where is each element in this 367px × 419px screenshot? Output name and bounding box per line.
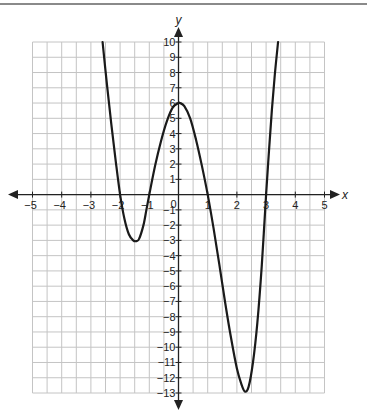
x-tick-label: 2 bbox=[234, 199, 240, 211]
tick-labels: −5−4−3−2−112345−13−12−11−10−9−8−7−6−5−4−… bbox=[24, 36, 327, 399]
y-tick-label: 8 bbox=[169, 67, 175, 79]
y-tick-label: 9 bbox=[169, 51, 175, 63]
y-tick-label: 2 bbox=[169, 158, 175, 170]
y-tick-label: −11 bbox=[158, 356, 176, 368]
x-axis-label: x bbox=[341, 188, 349, 202]
y-axis-label: y bbox=[175, 13, 183, 27]
y-tick-label: −3 bbox=[163, 234, 176, 246]
y-tick-label: −2 bbox=[163, 219, 176, 231]
y-axis-arrow-down-icon bbox=[174, 400, 183, 410]
x-tick-label: −3 bbox=[83, 199, 96, 211]
y-tick-label: −5 bbox=[163, 265, 176, 277]
y-tick-label: −6 bbox=[163, 280, 176, 292]
y-tick-label: −9 bbox=[163, 326, 176, 338]
y-tick-label: −10 bbox=[157, 341, 176, 353]
x-tick-label: −5 bbox=[24, 199, 37, 211]
y-tick-label: −13 bbox=[157, 387, 176, 399]
y-tick-label: 4 bbox=[169, 128, 175, 140]
y-tick-label: −7 bbox=[163, 295, 176, 307]
x-tick-label: 5 bbox=[321, 199, 327, 211]
origin-label: 0 bbox=[171, 198, 177, 210]
y-tick-label: −8 bbox=[163, 311, 176, 323]
y-tick-label: 7 bbox=[169, 82, 175, 94]
y-tick-label: −12 bbox=[157, 372, 176, 384]
y-tick-label: 10 bbox=[163, 36, 175, 48]
x-tick-label: −4 bbox=[53, 199, 66, 211]
function-graph: −5−4−3−2−112345−13−12−11−10−9−8−7−6−5−4−… bbox=[0, 0, 367, 419]
x-axis-arrow-right-icon bbox=[330, 190, 340, 199]
x-axis-arrow-left-icon bbox=[8, 190, 18, 199]
y-tick-label: −4 bbox=[163, 250, 176, 262]
y-tick-label: 3 bbox=[169, 143, 175, 155]
x-tick-label: 4 bbox=[292, 199, 298, 211]
y-tick-label: 1 bbox=[169, 173, 175, 185]
